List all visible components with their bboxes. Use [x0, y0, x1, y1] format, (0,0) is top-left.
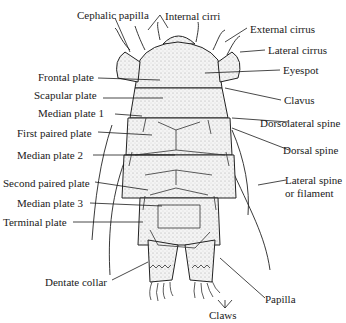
- label-lateral-spine-line1: Lateral spine: [285, 174, 342, 186]
- label-papilla: Papilla: [265, 293, 296, 305]
- label-claws: Claws: [209, 309, 237, 321]
- label-frontal-plate: Frontal plate: [38, 71, 94, 83]
- tardigrade-diagram: Cephalic papilla Internal cirri External…: [0, 0, 346, 323]
- label-dorsolateral-spine: Dorsolateral spine: [260, 117, 340, 129]
- label-internal-cirri: Internal cirri: [165, 10, 220, 22]
- label-cephalic-papilla: Cephalic papilla: [77, 9, 149, 21]
- label-dorsal-spine: Dorsal spine: [283, 144, 338, 156]
- label-lateral-spine-line2: or filament: [285, 187, 334, 199]
- label-dentate-collar: Dentate collar: [45, 276, 107, 288]
- label-eyespot: Eyespot: [283, 64, 318, 76]
- label-lateral-cirrus: Lateral cirrus: [268, 44, 327, 56]
- label-median-plate-2: Median plate 2: [17, 149, 83, 161]
- label-first-paired-plate: First paired plate: [17, 127, 92, 139]
- label-scapular-plate: Scapular plate: [34, 89, 97, 101]
- label-terminal-plate: Terminal plate: [3, 216, 67, 228]
- label-median-plate-3: Median plate 3: [17, 197, 83, 209]
- label-external-cirrus: External cirrus: [250, 23, 315, 35]
- label-clavus: Clavus: [284, 94, 315, 106]
- label-second-paired-plate: Second paired plate: [3, 177, 90, 189]
- label-median-plate-1: Median plate 1: [38, 107, 104, 119]
